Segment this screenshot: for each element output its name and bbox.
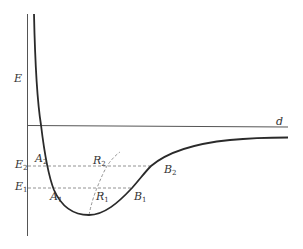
potential-curve — [34, 14, 288, 215]
b1-label: B1 — [134, 191, 147, 204]
x-axis-label: d — [276, 116, 283, 127]
a1-label: A1 — [50, 191, 62, 204]
r1-label: R1 — [96, 191, 109, 204]
a2-label: A2 — [35, 153, 47, 166]
potential-energy-diagram: E d E2 E1 A2 A1 R2 R1 B1 B2 — [0, 0, 303, 249]
diagram-canvas — [0, 0, 303, 249]
x-axis — [28, 126, 289, 128]
r2-label: R2 — [93, 155, 106, 168]
e2-label: E2 — [15, 159, 28, 172]
y-axis-label: E — [14, 73, 22, 84]
e1-label: E1 — [15, 181, 28, 194]
b2-label: B2 — [164, 164, 177, 177]
